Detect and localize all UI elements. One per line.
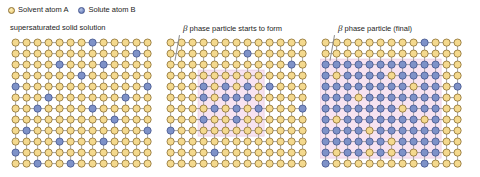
- solvent-atom: [333, 72, 340, 79]
- solvent-atom: [133, 61, 140, 68]
- solvent-atom: [133, 83, 140, 90]
- solvent-atom: [200, 61, 207, 68]
- solvent-atom: [45, 105, 52, 112]
- solvent-atom: [78, 94, 85, 101]
- solvent-atom: [322, 39, 329, 46]
- solute-atom: [322, 72, 329, 79]
- solvent-atom: [56, 94, 63, 101]
- solute-atom: [244, 83, 251, 90]
- solvent-atom: [189, 105, 196, 112]
- solvent-atom: [34, 39, 41, 46]
- solute-atom: [233, 105, 240, 112]
- solute-atom: [333, 83, 340, 90]
- solute-atom: [421, 160, 428, 167]
- solvent-atom: [178, 94, 185, 101]
- solvent-atom: [56, 160, 63, 167]
- solvent-atom: [100, 105, 107, 112]
- solvent-atom: [299, 160, 306, 167]
- solute-atom: [344, 116, 351, 123]
- solute-atom: [388, 127, 395, 134]
- solute-atom: [377, 116, 384, 123]
- solvent-atom: [122, 138, 129, 145]
- solvent-atom: [100, 94, 107, 101]
- solvent-atom: [67, 39, 74, 46]
- solvent-atom: [277, 50, 284, 57]
- solvent-atom: [299, 50, 306, 57]
- solvent-atom: [366, 50, 373, 57]
- solvent-atom: [377, 50, 384, 57]
- solute-atom: [388, 94, 395, 101]
- solvent-atom: [410, 160, 417, 167]
- solvent-atom: [111, 72, 118, 79]
- solvent-atom: [255, 160, 262, 167]
- solute-atom: [399, 116, 406, 123]
- solvent-atom: [255, 94, 262, 101]
- panel-title-text: phase particle starts to form: [187, 24, 282, 33]
- solute-atom: [421, 105, 428, 112]
- solvent-atom: [211, 50, 218, 57]
- solvent-atom: [222, 160, 229, 167]
- solvent-atom: [333, 149, 340, 156]
- solute-atom: [111, 116, 118, 123]
- solvent-atom: [454, 127, 461, 134]
- solvent-atom: [23, 105, 30, 112]
- solute-atom: [344, 83, 351, 90]
- solute-atom: [388, 116, 395, 123]
- solvent-atom: [89, 50, 96, 57]
- solvent-atom: [288, 72, 295, 79]
- solvent-atom: [23, 39, 30, 46]
- solvent-atom: [78, 116, 85, 123]
- panel-nucleating: β phase particle starts to form: [165, 24, 308, 169]
- solvent-atom: [421, 116, 428, 123]
- solute-atom: [333, 138, 340, 145]
- solvent-atom: [299, 116, 306, 123]
- solute-atom: [366, 138, 373, 145]
- solute-atom: [366, 105, 373, 112]
- solvent-atom: [443, 72, 450, 79]
- solvent-atom: [45, 72, 52, 79]
- solvent-atom: [288, 105, 295, 112]
- solvent-atom: [344, 39, 351, 46]
- solvent-atom: [432, 50, 439, 57]
- solvent-atom: [67, 83, 74, 90]
- solute-atom: [410, 127, 417, 134]
- solvent-atom: [23, 116, 30, 123]
- solute-atom: [421, 138, 428, 145]
- solute-atom: [432, 116, 439, 123]
- solvent-atom: [122, 105, 129, 112]
- panel-title-text: supersaturated solid solution: [10, 23, 105, 32]
- solvent-atom: [344, 50, 351, 57]
- solute-atom: [377, 72, 384, 79]
- solute-atom: [23, 127, 30, 134]
- legend: Solvent atom A Solute atom B: [8, 3, 136, 17]
- panel-supersaturated: supersaturated solid solution: [10, 24, 153, 169]
- solute-atom: [410, 116, 417, 123]
- solvent-atom: [200, 160, 207, 167]
- solvent-atom: [211, 116, 218, 123]
- solvent-atom: [200, 72, 207, 79]
- solvent-atom: [89, 160, 96, 167]
- solvent-atom: [178, 83, 185, 90]
- solvent-atom: [299, 83, 306, 90]
- solute-atom: [421, 39, 428, 46]
- solvent-atom: [211, 138, 218, 145]
- solvent-atom: [122, 61, 129, 68]
- solute-atom: [399, 61, 406, 68]
- solvent-atom: [34, 138, 41, 145]
- solvent-atom: [443, 94, 450, 101]
- solvent-atom: [189, 94, 196, 101]
- solvent-atom: [144, 160, 151, 167]
- solvent-atom: [111, 94, 118, 101]
- solute-atom: [167, 127, 174, 134]
- solvent-atom: [34, 116, 41, 123]
- legend-item-solute: Solute atom B: [78, 6, 135, 14]
- solvent-atom: [266, 61, 273, 68]
- solvent-atom: [277, 138, 284, 145]
- solvent-atom: [45, 61, 52, 68]
- solvent-atom: [78, 83, 85, 90]
- solvent-atom: [100, 149, 107, 156]
- solvent-atom: [277, 39, 284, 46]
- solute-atom: [56, 138, 63, 145]
- solvent-atom: [299, 94, 306, 101]
- solvent-atom: [100, 72, 107, 79]
